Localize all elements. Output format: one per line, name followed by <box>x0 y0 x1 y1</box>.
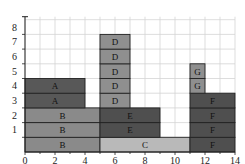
block-label: F <box>210 140 215 150</box>
block-C: C <box>100 137 190 152</box>
block-label: A <box>52 96 59 106</box>
y-tick-label: 2 <box>12 110 17 121</box>
block-label: E <box>127 111 133 121</box>
x-tick-label: 14 <box>230 155 240 164</box>
y-tick-label: 1 <box>12 124 17 135</box>
y-tick-label: 6 <box>12 51 17 62</box>
y-tick-label: 7 <box>12 36 17 47</box>
block-A: A <box>25 79 85 94</box>
block-label: D <box>112 67 119 77</box>
y-tick-label: 5 <box>12 66 17 77</box>
block-label: B <box>59 111 65 121</box>
block-label: D <box>112 81 119 91</box>
block-label: F <box>210 96 215 106</box>
block-E: E <box>100 123 160 138</box>
block-D: D <box>100 93 130 108</box>
block-G: G <box>190 79 205 94</box>
block-B: B <box>25 137 100 152</box>
block-A: A <box>25 93 85 108</box>
x-tick-label: 0 <box>23 155 28 164</box>
block-label: F <box>210 111 215 121</box>
block-D: D <box>100 64 130 79</box>
block-F: F <box>190 137 235 152</box>
y-tick-label: 8 <box>12 22 17 33</box>
block-F: F <box>190 108 235 123</box>
block-E: E <box>100 108 160 123</box>
block-D: D <box>100 34 130 49</box>
block-label: E <box>127 125 133 135</box>
block-B: B <box>25 123 100 138</box>
block-label: D <box>112 37 119 47</box>
x-tick-label: 10 <box>170 155 180 164</box>
block-B: B <box>25 108 100 123</box>
block-label: B <box>59 140 65 150</box>
block-label: G <box>194 81 201 91</box>
x-tick-label: 2 <box>53 155 58 164</box>
chart-blocks: BBBAACEEDDDDDFFFFGG <box>25 34 235 152</box>
block-F: F <box>190 93 235 108</box>
block-D: D <box>100 79 130 94</box>
block-chart: BBBAACEEDDDDDFFFFGG 0246810121412345678 <box>0 0 245 164</box>
y-tick-label: 3 <box>12 95 17 106</box>
block-label: G <box>194 67 201 77</box>
block-label: D <box>112 52 119 62</box>
y-tick-label: 4 <box>12 80 17 91</box>
block-D: D <box>100 49 130 64</box>
block-label: C <box>142 140 148 150</box>
x-tick-label: 12 <box>200 155 210 164</box>
x-tick-label: 6 <box>113 155 118 164</box>
block-label: A <box>52 81 59 91</box>
block-label: D <box>112 96 119 106</box>
x-tick-label: 4 <box>83 155 88 164</box>
block-label: F <box>210 125 215 135</box>
block-label: B <box>59 125 65 135</box>
block-F: F <box>190 123 235 138</box>
x-tick-label: 8 <box>143 155 148 164</box>
block-G: G <box>190 64 205 79</box>
